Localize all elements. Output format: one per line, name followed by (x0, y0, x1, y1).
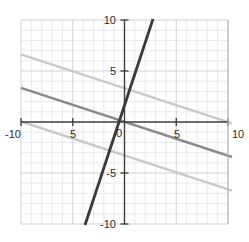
x-tick-label-neg5: 5 (70, 128, 76, 140)
x-tick-label-pos10: 10 (232, 128, 244, 140)
x-tick-label-neg10: -10 (5, 128, 21, 140)
y-tick-label-neg5: -5 (106, 167, 116, 179)
coordinate-graph-figure: -10 5 0 5 10 10 5 -5 -10 (0, 0, 249, 242)
x-tick-label-zero: 0 (116, 127, 122, 139)
y-tick-label-pos5: 5 (110, 65, 116, 77)
x-tick-label-pos5: 5 (174, 128, 180, 140)
y-tick-label-neg10: -10 (100, 218, 116, 230)
coordinate-plane-svg: -10 5 0 5 10 10 5 -5 -10 (0, 0, 249, 242)
y-tick-label-pos10: 10 (104, 14, 116, 26)
